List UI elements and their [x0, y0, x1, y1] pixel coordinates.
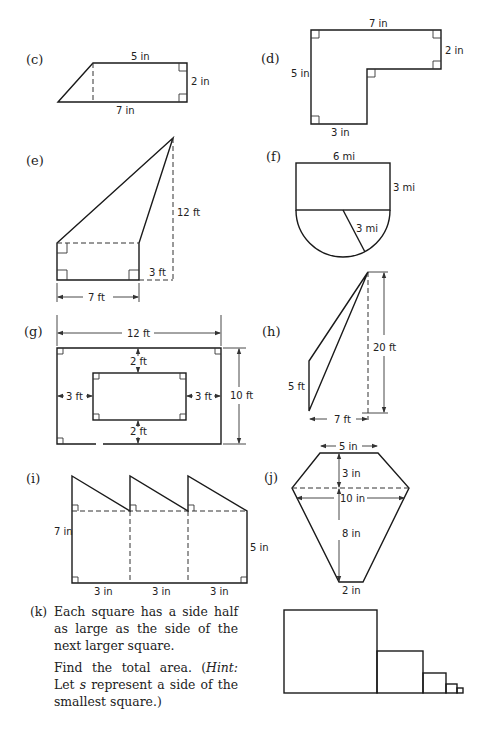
problem-k-paragraph-1: Each square has a side half as large as … [54, 603, 238, 654]
right-angle-mark [215, 348, 221, 354]
right-angle-mark [93, 414, 99, 420]
figure-d-top-label: 7 in [369, 18, 388, 29]
right-angle-mark [57, 348, 63, 354]
right-angle-mark [180, 414, 186, 420]
figure-h-base-label: 7 ft [334, 414, 351, 425]
figure-j-top-label: 5 in [339, 441, 358, 452]
figure-g-top-gap-label: 2 ft [130, 356, 147, 367]
figure-k-square-4 [446, 684, 457, 693]
figure-h-tag: (h) [262, 324, 281, 339]
figure-i-shape [72, 476, 247, 583]
figure-g-tag: (g) [24, 324, 42, 339]
figure-g-right-gap-label: 3 ft [195, 391, 212, 402]
figure-e-shape [57, 138, 173, 280]
figure-h-height-label: 20 ft [373, 342, 396, 353]
right-angle-mark [130, 505, 136, 511]
figure-e: (e) 12 ft 3 ft 7 ft [26, 138, 200, 303]
figure-g-height-label: 10 ft [230, 390, 253, 401]
figure-d: (d) 7 in 2 in 5 in 3 in [261, 18, 464, 138]
problem-k-paragraph-2: Find the total area. (Hint: Let s repres… [54, 659, 238, 710]
figure-d-right-label: 2 in [445, 45, 464, 56]
figure-g-bottom-gap-label: 2 ft [130, 426, 147, 437]
right-angle-mark [72, 505, 78, 511]
right-angle-mark [129, 270, 139, 280]
right-angle-mark [433, 30, 441, 38]
figure-g-inner-rectangle [93, 373, 186, 420]
figure-k-square-5 [457, 688, 463, 693]
figure-c: (c) 5 in 2 in 7 in [26, 51, 210, 116]
text: Find the total area. ( [54, 660, 206, 675]
figure-c-trapezoid [58, 63, 187, 102]
figure-d-tag: (d) [261, 51, 279, 66]
right-angle-mark [311, 30, 319, 38]
figure-h-quadrilateral [309, 272, 368, 411]
figure-c-top-label: 5 in [131, 51, 150, 62]
figure-j-middle-label: 10 in [340, 493, 365, 504]
figure-f-tag: (f) [266, 149, 281, 164]
right-angle-mark [179, 94, 187, 102]
figure-i-segment-label: 3 in [210, 586, 229, 597]
problem-k: (k) Each square has a side half as large… [30, 603, 238, 715]
figure-d-left-label: 5 in [291, 68, 310, 79]
figure-j-upper-height-label: 3 in [342, 468, 361, 479]
figure-j-lower-height-label: 8 in [342, 528, 361, 539]
figure-e-tag: (e) [26, 153, 44, 168]
right-angle-mark [72, 577, 78, 583]
right-angle-mark [241, 577, 247, 583]
figure-d-bottom-label: 3 in [331, 127, 350, 138]
figure-i: (i) 7 in 5 in 3 in 3 in 3 in [26, 471, 269, 597]
right-angle-mark [180, 373, 186, 379]
figure-e-height-label: 12 ft [177, 207, 200, 218]
figure-i-segment-label: 3 in [152, 586, 171, 597]
figure-f-top-label: 6 mi [333, 151, 355, 162]
right-angle-mark [188, 505, 194, 511]
right-angle-mark [433, 61, 441, 69]
figure-j-tag: (j) [264, 470, 278, 485]
figure-k-square-1 [284, 610, 377, 693]
figure-j: (j) 5 in 3 in 10 in 8 in 2 in [264, 441, 409, 596]
textbook-page: (c) 5 in 2 in 7 in (d) 7 in 2 in 5 in 3 … [0, 0, 488, 744]
hint-label: Hint: [206, 660, 238, 675]
right-angle-mark [311, 116, 319, 124]
figure-k [284, 610, 463, 693]
figure-f-right-label: 3 mi [393, 182, 415, 193]
figure-h-side-label: 5 ft [288, 381, 305, 392]
figure-i-tag: (i) [26, 471, 40, 486]
right-angle-mark [57, 243, 67, 253]
figure-c-tag: (c) [26, 52, 43, 67]
figure-c-right-label: 2 in [191, 76, 210, 87]
right-angle-mark [93, 373, 99, 379]
figure-f-rectangle [296, 163, 390, 210]
figure-g-width-label: 12 ft [127, 328, 150, 339]
figure-g: (g) 12 ft 10 ft 2 ft 2 ft 3 ft [24, 315, 253, 444]
figure-c-bottom-label: 7 in [116, 105, 135, 116]
right-angle-mark [367, 69, 375, 77]
figure-i-right-label: 5 in [250, 542, 269, 553]
right-angle-mark [179, 63, 187, 71]
figure-j-bottom-label: 2 in [342, 585, 361, 596]
right-angle-mark [57, 438, 63, 444]
figure-k-square-3 [423, 673, 446, 693]
problem-k-tag: (k) [30, 603, 47, 620]
figure-e-offset-label: 3 ft [149, 267, 166, 278]
figure-h: (h) 20 ft 5 ft 7 ft [262, 272, 396, 425]
figure-i-segment-label: 3 in [94, 586, 113, 597]
figure-k-square-2 [377, 651, 423, 693]
figure-f-radius-label: 3 mi [356, 223, 378, 234]
text: Let [54, 677, 80, 692]
figure-i-left-label: 7 in [54, 526, 73, 537]
figure-d-lshape [311, 30, 441, 124]
figure-g-left-gap-label: 3 ft [66, 391, 83, 402]
right-angle-mark [57, 270, 67, 280]
figure-f: (f) 6 mi 3 mi 3 mi [266, 149, 415, 257]
figure-e-width-label: 7 ft [88, 292, 105, 303]
